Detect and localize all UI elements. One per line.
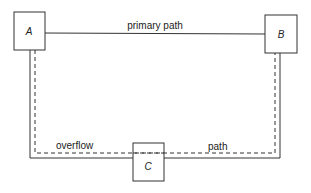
node-c-label: C (144, 161, 152, 172)
overflow-path-label: path (208, 141, 227, 152)
node-a-label: A (25, 26, 33, 37)
network-diagram: A B C primary path overflow path (0, 0, 311, 193)
node-a[interactable]: A (14, 12, 45, 50)
overflow-label: overflow (56, 140, 94, 151)
primary-path-label: primary path (127, 20, 183, 31)
node-b-label: B (278, 29, 285, 40)
node-b[interactable]: B (265, 15, 297, 53)
overflow-path-line (35, 50, 275, 153)
primary-path-line (45, 33, 265, 34)
node-c[interactable]: C (133, 143, 164, 181)
